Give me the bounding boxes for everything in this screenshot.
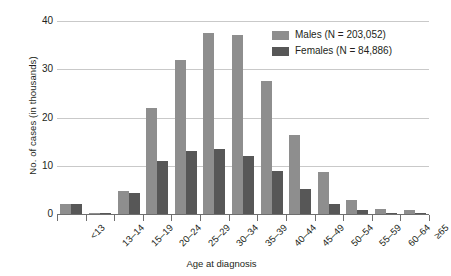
bar-females [71, 204, 82, 214]
legend-label: Females (N = 84,886) [295, 46, 392, 56]
x-tick-label: 20–24 [177, 222, 203, 248]
legend-swatch [272, 47, 289, 56]
x-tick [343, 215, 344, 221]
y-tick-label-30: 30 [21, 64, 53, 74]
bar-group [229, 21, 258, 214]
bar-group [143, 21, 172, 214]
legend-label: Males (N = 203,052) [295, 30, 386, 40]
bar-group [57, 21, 86, 214]
y-tick-label-0: 0 [21, 209, 53, 219]
bar-males [289, 135, 300, 214]
bar-group [86, 21, 115, 214]
bar-females [129, 193, 140, 214]
x-tick-label: 35–39 [263, 222, 289, 248]
x-tick [315, 215, 316, 221]
x-tick-label: 45–49 [320, 222, 346, 248]
x-tick [200, 215, 201, 221]
x-tick-label: 30–34 [234, 222, 260, 248]
x-tick [86, 215, 87, 221]
x-tick [229, 215, 230, 221]
y-tick-label-10: 10 [21, 161, 53, 171]
x-axis-title: Age at diagnosis [0, 258, 443, 269]
bar-females [157, 161, 168, 214]
x-tick [57, 215, 58, 221]
bar-females [214, 149, 225, 214]
bar-males [175, 60, 186, 214]
bar-males [261, 81, 272, 214]
bar-females [272, 171, 283, 214]
bar-females [186, 151, 197, 214]
bar-group [171, 21, 200, 214]
legend-swatch [272, 31, 289, 40]
x-tick [400, 215, 401, 221]
bar-males [118, 191, 129, 214]
x-tick-label: 60–64 [406, 222, 432, 248]
x-tick [171, 215, 172, 221]
bar-females [329, 204, 340, 214]
bar-males [203, 33, 214, 214]
x-tick-label: ≥65 [432, 222, 451, 241]
bar-group [114, 21, 143, 214]
legend: Males (N = 203,052)Females (N = 84,886) [272, 28, 392, 60]
x-tick-label: 15–19 [149, 222, 175, 248]
x-tick-label: <13 [88, 222, 107, 241]
x-tick [372, 215, 373, 221]
y-tick-label-40: 40 [21, 16, 53, 26]
x-tick-label: 40–44 [292, 222, 318, 248]
y-tick-label-20: 20 [21, 113, 53, 123]
x-tick-label: 13–14 [120, 222, 146, 248]
legend-item: Males (N = 203,052) [272, 28, 392, 42]
bar-males [60, 204, 71, 214]
x-tick [114, 215, 115, 221]
bar-males [146, 108, 157, 214]
x-tick [286, 215, 287, 221]
x-tick-label: 50–54 [349, 222, 375, 248]
bar-group [400, 21, 429, 214]
x-tick-label: 25–29 [206, 222, 232, 248]
bar-females [243, 156, 254, 214]
x-tick [429, 215, 430, 221]
bar-females [300, 189, 311, 214]
bar-males [318, 172, 329, 214]
x-tick-label: 55–59 [377, 222, 403, 248]
bar-males [346, 200, 357, 214]
legend-item: Females (N = 84,886) [272, 44, 392, 58]
bar-males [232, 35, 243, 214]
x-axis-ticks [57, 215, 429, 221]
bar-group [200, 21, 229, 214]
x-tick [257, 215, 258, 221]
x-tick [143, 215, 144, 221]
